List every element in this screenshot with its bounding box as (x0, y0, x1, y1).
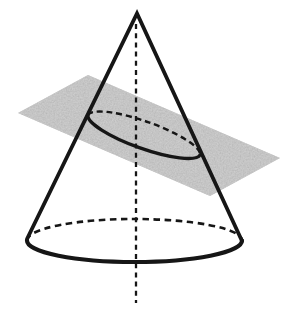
cone-base-front-edge (27, 241, 242, 263)
figure-canvas (0, 0, 301, 313)
conic-section-figure (0, 0, 301, 313)
cone-base-back-edge-dashed (27, 219, 242, 241)
